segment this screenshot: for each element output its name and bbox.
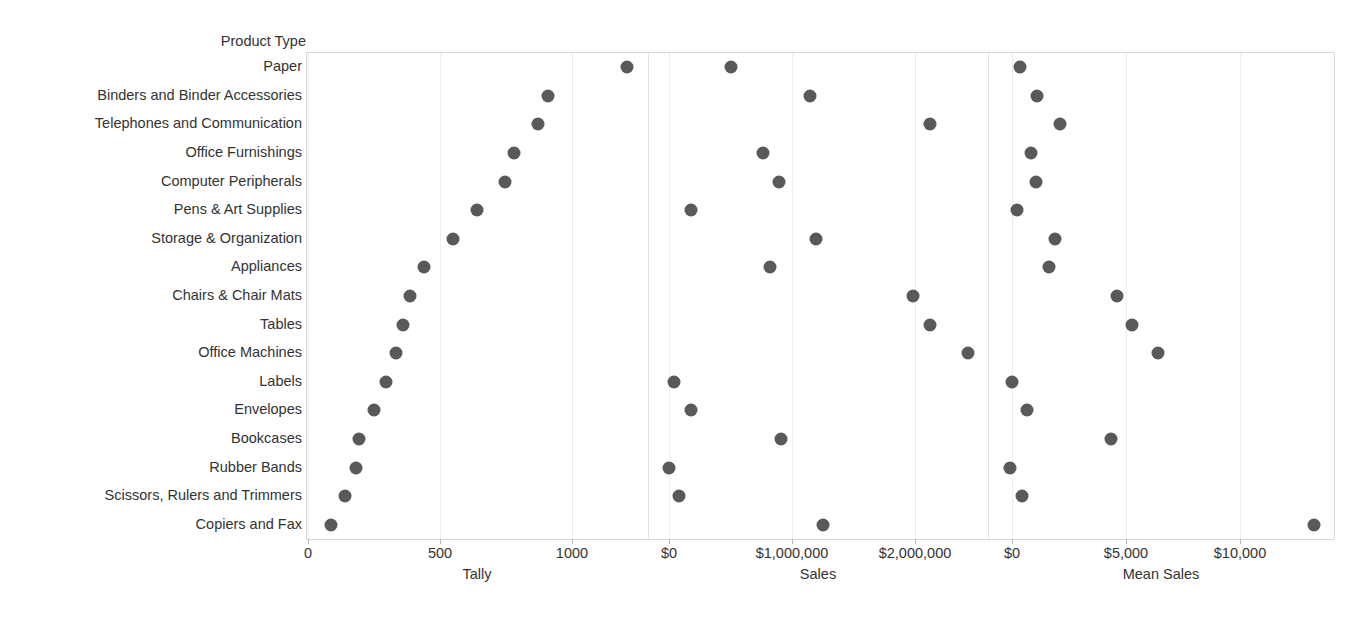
data-point[interactable] <box>962 347 975 360</box>
row-label[interactable]: Scissors, Rulers and Trimmers <box>0 488 302 502</box>
data-point[interactable] <box>1006 375 1019 388</box>
data-point[interactable] <box>763 261 776 274</box>
data-point[interactable] <box>368 404 381 417</box>
data-point[interactable] <box>1054 118 1067 131</box>
gridline <box>572 53 573 539</box>
data-point[interactable] <box>541 89 554 102</box>
row-label[interactable]: Pens & Art Supplies <box>0 202 302 216</box>
data-point[interactable] <box>772 175 785 188</box>
data-point[interactable] <box>775 432 788 445</box>
data-point[interactable] <box>379 375 392 388</box>
gridline <box>440 53 441 539</box>
data-point[interactable] <box>809 232 822 245</box>
data-point[interactable] <box>924 318 937 331</box>
data-point[interactable] <box>508 147 521 160</box>
data-point[interactable] <box>1011 204 1024 217</box>
gridline <box>308 53 309 539</box>
axis-tick-label: $5,000 <box>1104 545 1148 561</box>
data-point[interactable] <box>389 347 402 360</box>
data-point[interactable] <box>1110 290 1123 303</box>
data-point[interactable] <box>924 118 937 131</box>
plot-area <box>306 52 1334 540</box>
data-point[interactable] <box>672 490 685 503</box>
data-point[interactable] <box>352 432 365 445</box>
data-point[interactable] <box>397 318 410 331</box>
data-point[interactable] <box>685 204 698 217</box>
data-point[interactable] <box>1049 232 1062 245</box>
axis-tick-label: $10,000 <box>1214 545 1266 561</box>
axis-tick <box>1126 539 1127 544</box>
data-point[interactable] <box>417 261 430 274</box>
row-label[interactable]: Bookcases <box>0 431 302 445</box>
data-point[interactable] <box>403 290 416 303</box>
row-label[interactable]: Tables <box>0 317 302 331</box>
data-point[interactable] <box>907 290 920 303</box>
row-label[interactable]: Telephones and Communication <box>0 116 302 130</box>
data-point[interactable] <box>803 89 816 102</box>
data-point[interactable] <box>498 175 511 188</box>
row-label[interactable]: Storage & Organization <box>0 231 302 245</box>
data-point[interactable] <box>663 461 676 474</box>
product-type-field-caption: Product Type <box>0 33 306 49</box>
data-point[interactable] <box>1014 61 1027 74</box>
row-label[interactable]: Labels <box>0 374 302 388</box>
panel-sales <box>648 53 988 539</box>
data-point[interactable] <box>1043 261 1056 274</box>
row-label[interactable]: Appliances <box>0 259 302 273</box>
data-point[interactable] <box>446 232 459 245</box>
data-point[interactable] <box>338 490 351 503</box>
data-point[interactable] <box>685 404 698 417</box>
data-point[interactable] <box>724 61 737 74</box>
data-point[interactable] <box>1016 490 1029 503</box>
data-point[interactable] <box>1152 347 1165 360</box>
data-point[interactable] <box>1003 461 1016 474</box>
axis-title-mean_sales: Mean Sales <box>1123 566 1200 582</box>
data-point[interactable] <box>350 461 363 474</box>
data-point[interactable] <box>1025 147 1038 160</box>
data-point[interactable] <box>1307 518 1320 531</box>
panel-mean_sales <box>988 53 1334 539</box>
row-label[interactable]: Copiers and Fax <box>0 517 302 531</box>
plot-right-edge <box>1334 53 1335 539</box>
axis-tick <box>1012 539 1013 544</box>
data-point[interactable] <box>532 118 545 131</box>
gridline <box>1240 53 1241 539</box>
data-point[interactable] <box>756 147 769 160</box>
gridline <box>1126 53 1127 539</box>
row-label[interactable]: Office Furnishings <box>0 145 302 159</box>
data-point[interactable] <box>620 61 633 74</box>
row-label[interactable]: Envelopes <box>0 402 302 416</box>
row-label[interactable]: Binders and Binder Accessories <box>0 88 302 102</box>
gridline <box>792 53 793 539</box>
axis-mean_sales: $0$5,000$10,000Mean Sales <box>0 539 1360 619</box>
data-point[interactable] <box>816 518 829 531</box>
row-label[interactable]: Paper <box>0 59 302 73</box>
data-point[interactable] <box>1104 432 1117 445</box>
data-point[interactable] <box>1126 318 1139 331</box>
data-point[interactable] <box>1021 404 1034 417</box>
data-point[interactable] <box>1030 175 1043 188</box>
row-label[interactable]: Computer Peripherals <box>0 174 302 188</box>
row-label[interactable]: Rubber Bands <box>0 460 302 474</box>
row-label[interactable]: Office Machines <box>0 345 302 359</box>
axis-tick <box>1240 539 1241 544</box>
data-point[interactable] <box>324 518 337 531</box>
axis-tick-label: $0 <box>1004 545 1020 561</box>
data-point[interactable] <box>668 375 681 388</box>
data-point[interactable] <box>470 204 483 217</box>
data-point[interactable] <box>1031 89 1044 102</box>
row-label[interactable]: Chairs & Chair Mats <box>0 288 302 302</box>
row-label-column: PaperBinders and Binder AccessoriesTelep… <box>0 52 306 538</box>
dot-plot-visualization: Product Type PaperBinders and Binder Acc… <box>0 0 1360 622</box>
